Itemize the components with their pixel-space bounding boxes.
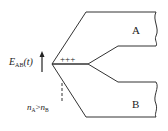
region-b-outline [52,64,157,117]
region-a-label: A [132,24,140,36]
arrow-head-icon [40,51,45,57]
diagram-canvas: A B +++ EAB(t) nA>nB [0,0,168,131]
charge-label: +++ [60,54,75,64]
field-label: EAB(t) [8,56,34,68]
region-b-label: B [132,98,139,110]
condition-label: nA>nB [27,102,49,113]
